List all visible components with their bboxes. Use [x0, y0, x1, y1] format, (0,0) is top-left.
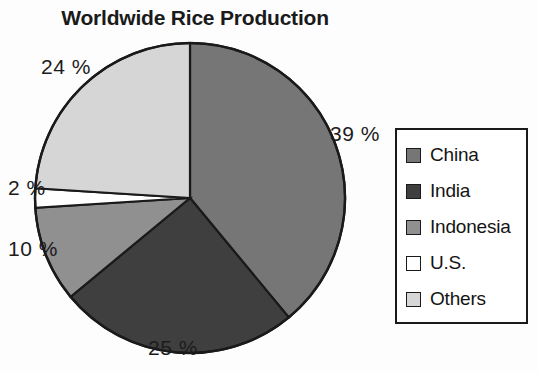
pie-chart-figure: Worldwide Rice Production 39 % 25 % 10 %…: [0, 0, 538, 372]
legend-label-china: China: [430, 144, 479, 166]
legend-swatch-others: [406, 292, 421, 307]
legend-label-others: Others: [430, 288, 486, 310]
slice-label-india: 25 %: [148, 336, 198, 360]
legend: China India Indonesia U.S. Others: [395, 128, 528, 324]
slice-label-indonesia: 10 %: [8, 237, 58, 261]
pie-chart-graphic: [20, 34, 380, 364]
slice-label-others: 24 %: [41, 55, 91, 79]
legend-label-indonesia: Indonesia: [430, 216, 511, 238]
legend-items: China India Indonesia U.S. Others: [397, 130, 526, 322]
legend-swatch-us: [406, 256, 421, 271]
legend-label-us: U.S.: [430, 252, 466, 274]
legend-item-india[interactable]: India: [406, 173, 526, 209]
legend-item-others[interactable]: Others: [406, 281, 526, 317]
legend-item-china[interactable]: China: [406, 137, 526, 173]
slice-label-us: 2 %: [8, 176, 46, 200]
slice-label-china: 39 %: [330, 122, 380, 146]
legend-swatch-indonesia: [406, 220, 421, 235]
page-title: Worldwide Rice Production: [0, 6, 390, 30]
legend-item-indonesia[interactable]: Indonesia: [406, 209, 526, 245]
legend-swatch-china: [406, 148, 421, 163]
legend-label-india: India: [430, 180, 470, 202]
legend-item-us[interactable]: U.S.: [406, 245, 526, 281]
legend-swatch-india: [406, 184, 421, 199]
pie-slices: [35, 43, 345, 353]
